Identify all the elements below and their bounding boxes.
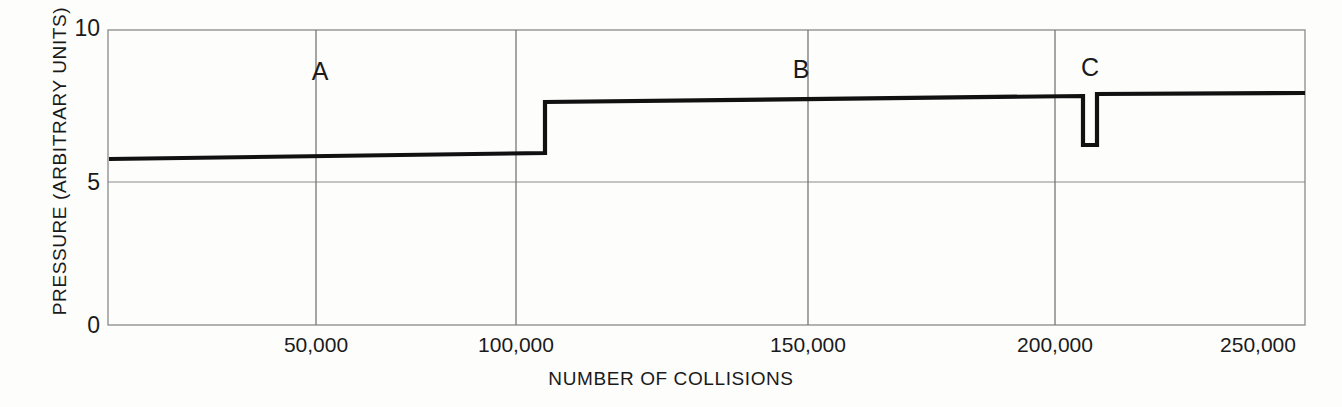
- x-tick-label-150000: 150,000: [733, 333, 883, 357]
- x-tick-label-200000: 200,000: [980, 333, 1130, 357]
- x-tick-label-250000: 250,000: [1183, 333, 1333, 357]
- plot-area: [0, 0, 1342, 407]
- pressure-data-line: [109, 93, 1305, 159]
- annotation-label-c: C: [1070, 53, 1110, 82]
- x-tick-label-50000: 50,000: [241, 333, 391, 357]
- annotation-label-b: B: [781, 55, 821, 84]
- plot-border: [108, 30, 1305, 325]
- x-tick-label-100000: 100,000: [441, 333, 591, 357]
- x-axis-title: NUMBER OF COLLISIONS: [0, 368, 1342, 390]
- pressure-vs-collisions-chart: PRESSURE (ARBITRARY UNITS) 10 5 0 50,000…: [0, 0, 1342, 407]
- annotation-label-a: A: [300, 57, 340, 86]
